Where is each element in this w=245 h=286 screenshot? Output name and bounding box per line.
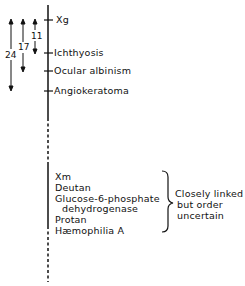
marker-label-ichthyosis: Ichthyosis — [54, 47, 104, 58]
distance-11: 11 — [31, 31, 42, 41]
arrowhead-11-down — [33, 49, 37, 54]
cluster-item-haemophilia-a: Hæmophilia A — [55, 225, 124, 236]
marker-label-ocular-albinism: Ocular albinism — [54, 65, 131, 76]
curly-brace — [162, 171, 173, 232]
arrowhead-17-up — [21, 19, 25, 24]
marker-label-angiokeratoma: Angiokeratoma — [54, 85, 129, 96]
marker-label-xg: Xg — [56, 14, 69, 25]
distance-24: 24 — [5, 50, 16, 60]
cluster-item-protan: Protan — [55, 214, 87, 225]
cluster-item-xm: Xm — [55, 171, 71, 182]
distance-17: 17 — [18, 42, 29, 52]
cluster-item-deutan: Deutan — [55, 182, 91, 193]
cluster-note-line1: Closely linked — [175, 188, 243, 199]
cluster-note-line3: uncertain — [177, 210, 224, 221]
arrowhead-17-down — [21, 67, 25, 72]
arrowhead-24-down — [9, 86, 13, 91]
arrowhead-11-up — [33, 19, 37, 24]
cluster-note-line2: but order — [177, 199, 223, 210]
arrowhead-24-up — [9, 19, 13, 24]
cluster-item-g6pd-line2: dehydrogenase — [62, 203, 138, 214]
map-lines — [0, 0, 245, 286]
